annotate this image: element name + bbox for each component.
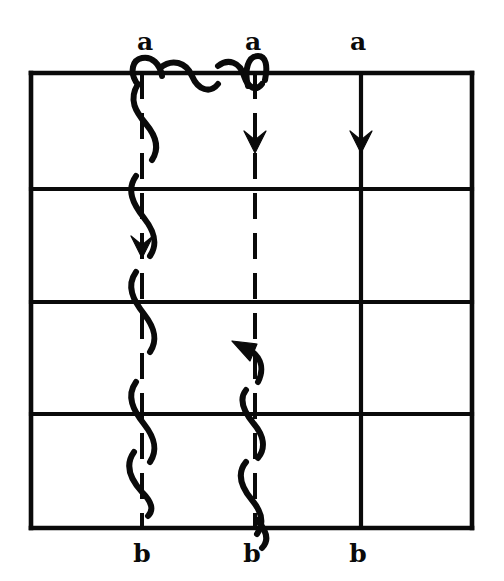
top-label-a-2: a [245,27,261,56]
down-arrowheads [131,131,372,258]
lattice-diagram: a a a b b b [0,0,504,581]
top-label-a-3: a [350,27,366,56]
figure-canvas: a a a b b b [0,0,504,581]
top-axis-labels: a a a [137,27,366,56]
squiggle-top-connector-wave-1 [160,62,218,89]
bottom-label-b-3: b [349,539,366,568]
bottom-label-b-2: b [243,539,260,568]
squiggle-column-1-seg-a [133,84,156,160]
top-label-a-1: a [137,27,153,56]
squiggle-column-1-seg-top [133,58,162,82]
bottom-axis-labels: b b b [133,539,366,568]
squiggle-column-2-seg-a [242,390,263,458]
bottom-label-b-1: b [133,539,150,568]
squiggle-column-1 [129,58,162,516]
